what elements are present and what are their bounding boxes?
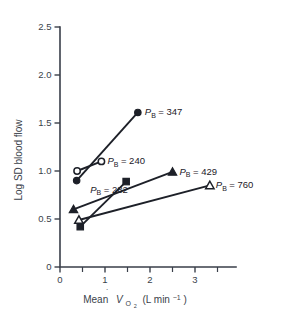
marker-open-triangle xyxy=(75,216,83,223)
y-tick-label: 1.5 xyxy=(38,117,51,128)
x-tick-label: 0 xyxy=(57,274,62,285)
y-axis-title-text: Log SD blood flow xyxy=(13,119,24,201)
series-label: PB= 347 xyxy=(145,106,183,118)
marker-open-triangle xyxy=(206,181,214,188)
y-tick-label: 2.0 xyxy=(38,69,51,80)
x-tick-label: 2 xyxy=(147,274,152,285)
v-dot-accent: · xyxy=(106,285,109,294)
x-tick-label: 1 xyxy=(102,274,107,285)
series-label: PB= 429 xyxy=(180,166,218,178)
x-axis-title: Mean V O 2 (L min −1 ) · xyxy=(83,285,187,310)
y-tick-label: 1.0 xyxy=(38,165,51,176)
series-label: PB= 282 xyxy=(90,184,128,196)
log-sd-blood-flow-scatter-plot: 00.51.01.52.02.50123 PB= 347PB= 240PB= 2… xyxy=(0,0,281,315)
x-tick-label: 3 xyxy=(192,274,197,285)
axis-tick-labels: 00.51.01.52.02.50123 xyxy=(38,21,197,285)
chart-figure: 00.51.01.52.02.50123 PB= 347PB= 240PB= 2… xyxy=(0,0,281,315)
y-tick-label: 2.5 xyxy=(38,21,51,32)
y-axis-title: Log SD blood flow xyxy=(13,119,24,201)
series-0 xyxy=(73,109,141,184)
y-tick-label: 0.5 xyxy=(38,213,51,224)
series-label: PB= 240 xyxy=(107,155,145,167)
marker-filled-circle xyxy=(73,177,79,183)
marker-open-circle xyxy=(74,168,80,174)
y-tick-label: 0 xyxy=(46,261,51,272)
series-line xyxy=(77,112,138,180)
axis-ticks xyxy=(55,27,218,273)
axes xyxy=(60,27,236,267)
series-annotations: PB= 347PB= 240PB= 282PB= 429PB= 760 xyxy=(90,106,253,195)
marker-open-circle xyxy=(98,158,104,164)
series-1 xyxy=(74,158,105,174)
marker-filled-triangle xyxy=(168,168,176,175)
series-label: PB= 760 xyxy=(216,179,254,191)
x-axis-title-text: Mean V O 2 (L min −1 ) xyxy=(83,291,187,310)
marker-filled-square xyxy=(77,223,83,229)
marker-filled-circle xyxy=(135,109,141,115)
